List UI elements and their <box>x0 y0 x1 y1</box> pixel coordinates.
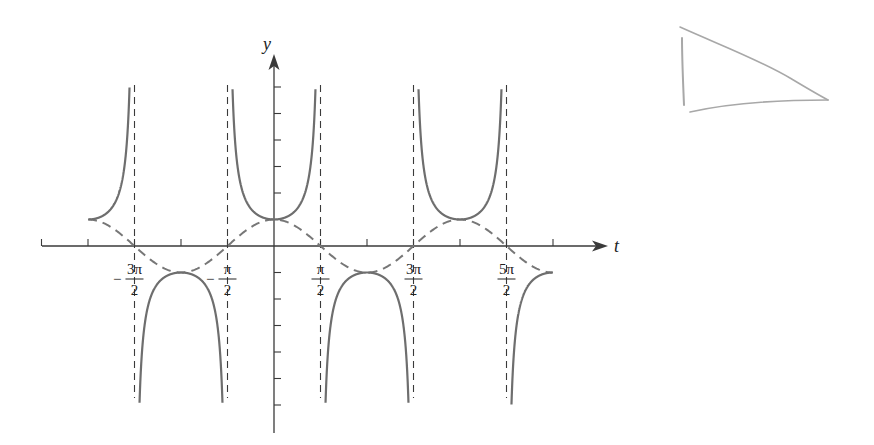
x-tick-labels: 3π2−π2−π23π25π2 <box>113 261 515 298</box>
svg-text:π: π <box>317 261 325 277</box>
svg-text:2: 2 <box>131 282 139 298</box>
x-tick-label: 3π2− <box>113 261 143 298</box>
hand-drawn-triangle-sketch <box>680 27 828 112</box>
secant-cosine-plot: y t 3π2−π2−π23π25π2 <box>0 0 874 445</box>
secant-branch <box>89 88 130 220</box>
x-tick-label: 3π2 <box>405 261 423 298</box>
svg-text:2: 2 <box>410 282 418 298</box>
svg-text:2: 2 <box>317 282 325 298</box>
svg-text:−: − <box>206 271 214 287</box>
t-axis-label: t <box>614 236 620 256</box>
x-tick-label: π2 <box>312 261 330 298</box>
svg-text:5π: 5π <box>499 261 515 277</box>
svg-text:2: 2 <box>224 282 232 298</box>
secant-branch <box>419 89 502 219</box>
svg-text:2: 2 <box>503 282 511 298</box>
svg-text:−: − <box>113 271 121 287</box>
svg-text:3π: 3π <box>406 261 422 277</box>
secant-branch <box>511 273 552 405</box>
x-ticks <box>42 239 554 246</box>
x-tick-label: 5π2 <box>498 261 516 298</box>
svg-text:π: π <box>224 261 232 277</box>
secant-branch <box>140 273 223 403</box>
secant-branch <box>326 273 409 403</box>
y-axis-label: y <box>261 34 271 54</box>
axes <box>42 54 609 433</box>
svg-text:3π: 3π <box>127 261 143 277</box>
